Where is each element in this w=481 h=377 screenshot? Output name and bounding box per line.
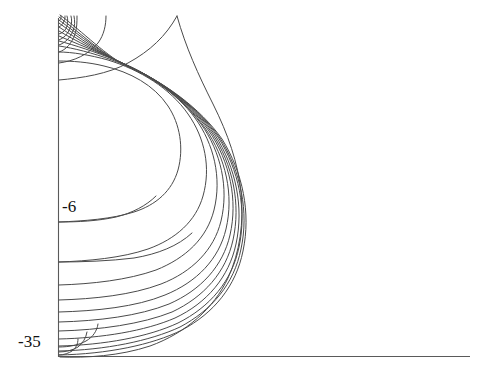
contour-line-level--26 [59,23,239,339]
contour-label-lower: -35 [18,333,41,350]
contour-line-level--11 [59,46,217,285]
contour-line-origin-arc-2 [59,332,87,352]
contour-label-upper: -6 [62,198,76,215]
contour-line-level--32 [59,17,244,351]
contour-line-level--8 [59,52,207,262]
contour-line-level--23 [59,27,236,331]
contour-plot-figure: -6 -35 [0,0,481,377]
contour-lines-group [59,15,246,357]
axes-group [58,18,470,357]
contour-line-level--17 [59,36,229,312]
contour-plot-canvas [0,0,481,377]
contour-line-level--35 [59,15,246,355]
contour-line-level--29 [59,20,242,346]
